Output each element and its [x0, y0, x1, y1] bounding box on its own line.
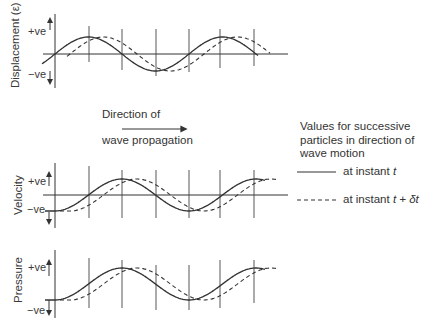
pressure-gridlines [89, 258, 254, 310]
displacement-axis-label: Displacement (ε) [9, 2, 21, 88]
velocity-panel: +ve −ve Velocity [12, 163, 288, 228]
legend-title: Values for successive particles in direc… [300, 120, 424, 161]
pressure-axis-label: Pressure [12, 257, 24, 303]
pressure-pos-label: +ve [28, 261, 46, 273]
direction-label-line1: Direction of [102, 108, 160, 120]
displacement-panel: +ve −ve Displacement (ε) [9, 2, 288, 88]
velocity-gridlines [89, 166, 254, 218]
pressure-solid-curve [45, 268, 265, 300]
legend-dashed-text: at instant [343, 193, 393, 205]
velocity-neg-label: −ve [27, 203, 45, 215]
pressure-panel: +ve −ve Pressure [12, 250, 288, 318]
legend-dashed-label: at instant t + δt [343, 193, 419, 205]
pressure-dashed-curve [60, 268, 277, 300]
legend-dashed-var: t + δt [393, 193, 419, 205]
direction-label-line2: wave propagation [102, 134, 193, 146]
velocity-pos-label: +ve [28, 175, 46, 187]
displacement-neg-label: −ve [28, 68, 46, 80]
legend-solid-var: t [393, 165, 396, 177]
legend-solid-label: at instant t [343, 165, 396, 177]
displacement-pos-label: +ve [28, 25, 46, 37]
legend-solid-text: at instant [343, 165, 393, 177]
pressure-neg-label: −ve [27, 304, 45, 316]
displacement-gridlines [89, 26, 254, 76]
velocity-axis-label: Velocity [12, 175, 24, 215]
